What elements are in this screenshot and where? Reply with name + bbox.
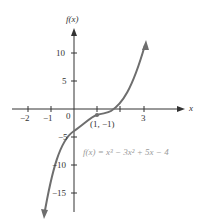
x-tick-label-3: 3 (141, 114, 146, 123)
y-axis-label: f(x) (66, 15, 79, 24)
y-tick-label-neg5: −5 (58, 133, 68, 142)
x-axis-label: x (189, 104, 193, 113)
point-marker (95, 113, 99, 117)
y-tick-label-neg15: −15 (52, 189, 66, 198)
y-tick-label-5: 5 (62, 77, 67, 86)
curve-arrow-up-icon (142, 40, 149, 50)
y-tick-label-neg10: −10 (52, 161, 66, 170)
equation-label: f(x) = x³ − 3x² + 5x − 4 (83, 148, 169, 157)
curve-arrow-down-icon (41, 209, 48, 219)
y-tick-label-10: 10 (56, 49, 65, 58)
origin-label: 0 (66, 112, 71, 121)
y-axis-arrow-icon (71, 28, 77, 36)
point-label: (1, −1) (90, 120, 115, 129)
x-tick-label-neg1: −1 (43, 114, 53, 123)
x-axis-arrow-icon (177, 106, 185, 112)
function-graph (0, 0, 202, 221)
x-tick-label-neg2: −2 (20, 114, 30, 123)
